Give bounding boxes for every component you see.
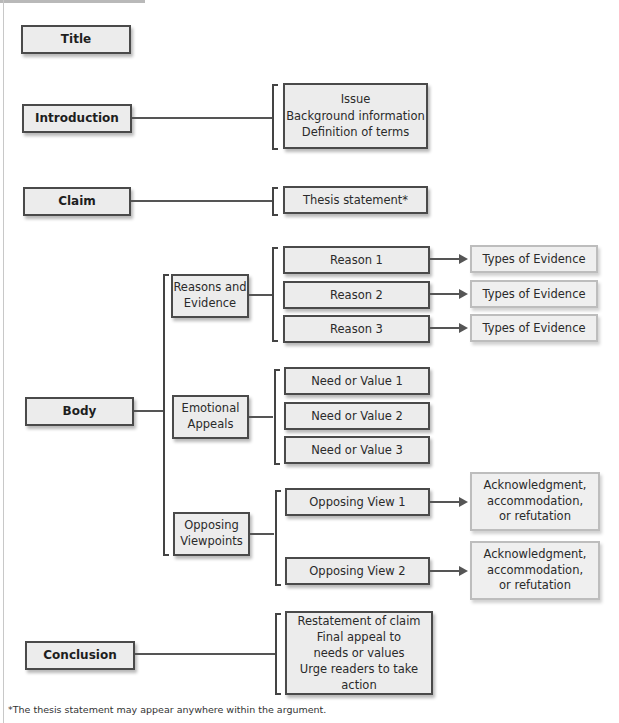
evidence-1-label: Types of Evidence (482, 251, 585, 268)
evidence-3-box: Types of Evidence (470, 314, 598, 342)
need-value-2-box: Need or Value 2 (284, 402, 430, 430)
reason-2-box: Reason 2 (283, 281, 430, 309)
reasons-evidence-box: Reasons and Evidence (171, 274, 249, 318)
response-2-line1: Acknowledgment, (484, 547, 587, 563)
intro-item-background: Background information (286, 108, 425, 125)
evidence-2-label: Types of Evidence (482, 286, 585, 303)
body-box: Body (25, 397, 134, 426)
opposing-view-1-label: Opposing View 1 (309, 494, 405, 511)
reason-1-box: Reason 1 (283, 246, 430, 274)
response-2-line3: or refutation (499, 578, 571, 594)
response-1-line1: Acknowledgment, (484, 478, 587, 494)
intro-item-definitions: Definition of terms (302, 124, 409, 141)
reason-1-label: Reason 1 (330, 252, 383, 269)
title-box: Title (21, 25, 131, 54)
reason-1-arrow-line (430, 258, 460, 260)
opposing-2-arrow-line (430, 570, 460, 572)
introduction-connector (132, 117, 272, 119)
footnote: *The thesis statement may appear anywher… (8, 704, 326, 715)
emotional-label-line2: Appeals (188, 417, 234, 433)
need-value-3-label: Need or Value 3 (311, 442, 403, 459)
opposing-2-arrow-icon (459, 566, 468, 576)
introduction-bracket (272, 84, 278, 150)
response-1-box: Acknowledgment, accommodation, or refuta… (470, 472, 600, 531)
evidence-2-box: Types of Evidence (470, 280, 598, 308)
reason-2-arrow-line (430, 293, 460, 295)
response-1-line2: accommodation, (487, 494, 583, 510)
reasons-bracket (272, 247, 278, 342)
opposing-viewpoints-box: Opposing Viewpoints (173, 512, 250, 556)
opposing-label-line1: Opposing (184, 518, 238, 534)
conclusion-item-restatement: Restatement of claim (297, 613, 420, 629)
left-margin-rule (3, 0, 4, 723)
conclusion-label: Conclusion (43, 647, 116, 664)
introduction-label: Introduction (35, 110, 119, 127)
claim-box: Claim (23, 187, 131, 216)
reason-3-label: Reason 3 (330, 321, 383, 338)
evidence-1-box: Types of Evidence (470, 245, 598, 273)
emotional-appeals-box: Emotional Appeals (172, 395, 249, 439)
need-value-3-box: Need or Value 3 (284, 436, 430, 464)
conclusion-item-action: Urge readers to take action (287, 661, 431, 693)
intro-item-issue: Issue (341, 91, 371, 108)
emotional-bracket (274, 369, 280, 465)
introduction-details-box: Issue Background information Definition … (283, 83, 428, 149)
claim-label: Claim (58, 193, 96, 210)
response-2-line2: accommodation, (487, 563, 583, 579)
conclusion-box: Conclusion (25, 641, 135, 670)
title-label: Title (61, 31, 91, 48)
reason-3-box: Reason 3 (283, 315, 430, 343)
opposing-label-line2: Viewpoints (180, 534, 243, 550)
conclusion-connector (135, 653, 275, 655)
conclusion-details-box: Restatement of claim Final appeal to nee… (285, 611, 433, 695)
reason-2-arrow-icon (459, 289, 468, 299)
body-connector (134, 410, 164, 412)
conclusion-item-appeal-line2: needs or values (313, 645, 404, 661)
reasons-connector (249, 294, 273, 296)
thesis-statement-label: Thesis statement* (303, 192, 408, 209)
opposing-1-arrow-icon (459, 497, 468, 507)
body-bracket (163, 274, 169, 556)
reasons-label-line1: Reasons and (173, 280, 246, 296)
opposing-view-2-label: Opposing View 2 (309, 563, 405, 580)
reason-1-arrow-icon (459, 254, 468, 264)
conclusion-bracket (275, 613, 281, 695)
emotional-label-line1: Emotional (182, 401, 240, 417)
claim-connector (131, 200, 272, 202)
reason-2-label: Reason 2 (330, 287, 383, 304)
opposing-view-1-box: Opposing View 1 (285, 488, 430, 516)
need-value-1-label: Need or Value 1 (311, 373, 403, 390)
need-value-1-box: Need or Value 1 (284, 367, 430, 395)
reason-3-arrow-icon (459, 323, 468, 333)
opposing-bracket (275, 490, 281, 586)
response-1-line3: or refutation (499, 509, 571, 525)
need-value-2-label: Need or Value 2 (311, 408, 403, 425)
thesis-statement-box: Thesis statement* (283, 186, 428, 214)
body-label: Body (63, 403, 97, 420)
evidence-3-label: Types of Evidence (482, 320, 585, 337)
opposing-1-arrow-line (430, 501, 460, 503)
response-2-box: Acknowledgment, accommodation, or refuta… (470, 541, 600, 600)
opposing-view-2-box: Opposing View 2 (285, 557, 430, 585)
conclusion-item-appeal-line1: Final appeal to (317, 629, 401, 645)
top-edge-bar (0, 0, 145, 3)
emotional-connector (249, 416, 273, 418)
opposing-connector (250, 533, 274, 535)
claim-bracket (272, 187, 278, 216)
introduction-box: Introduction (22, 104, 132, 133)
reasons-label-line2: Evidence (184, 296, 236, 312)
reason-3-arrow-line (430, 327, 460, 329)
